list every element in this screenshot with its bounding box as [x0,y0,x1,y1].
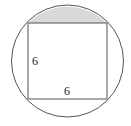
shaded-segment [28,7,107,23]
bottom-side-label: 6 [64,84,70,98]
left-side-label: 6 [32,54,38,68]
inscribed-square-diagram: 6 6 [0,0,131,126]
